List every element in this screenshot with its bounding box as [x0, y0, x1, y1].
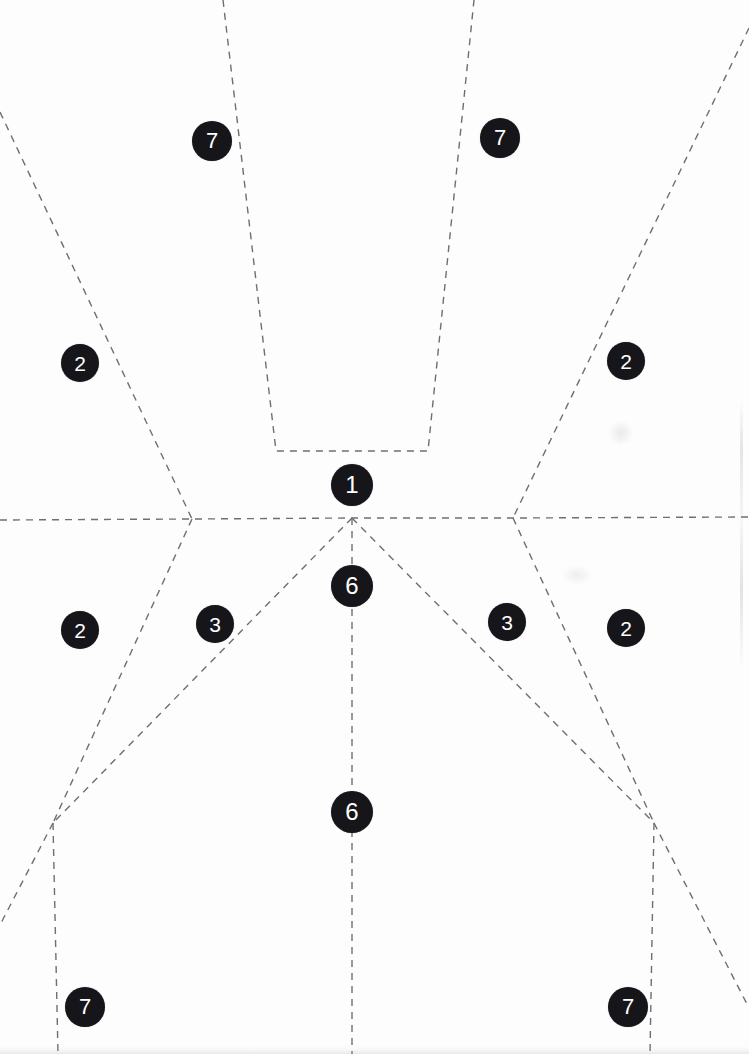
- left-fork-outward-seam: [0, 823, 53, 925]
- notch-marker-2: 2: [61, 611, 99, 649]
- right-fork-drop: [650, 823, 654, 1054]
- notch-marker-3: 3: [196, 605, 234, 643]
- left-fork-drop: [53, 823, 58, 1054]
- notch-marker-label: 7: [622, 996, 634, 1018]
- notch-marker-label: 7: [79, 996, 91, 1018]
- notch-marker-3: 3: [488, 603, 526, 641]
- notch-marker-7: 7: [480, 118, 520, 158]
- right-lower-seam: [513, 518, 654, 823]
- left-inner-seam: [53, 518, 352, 823]
- notch-marker-label: 1: [345, 473, 358, 497]
- notch-marker-label: 3: [501, 611, 513, 632]
- notch-marker-label: 2: [74, 352, 86, 373]
- notch-marker-2: 2: [607, 609, 645, 647]
- dashed-paths-group: [0, 0, 749, 1054]
- notch-marker-label: 7: [206, 130, 218, 152]
- horizontal-centre-axis: [0, 517, 749, 520]
- notch-marker-6: 6: [331, 565, 373, 607]
- notch-marker-7: 7: [192, 121, 232, 161]
- notch-marker-label: 2: [74, 619, 86, 640]
- right-fork-outward-seam: [654, 823, 749, 1008]
- right-inner-seam: [352, 518, 654, 823]
- notch-marker-label: 2: [620, 617, 632, 638]
- notch-marker-6: 6: [331, 791, 373, 833]
- notch-marker-label: 6: [345, 574, 358, 598]
- pattern-sheet: 7722162332677: [0, 0, 749, 1054]
- notch-marker-7: 7: [65, 987, 105, 1027]
- centre-panel-outline: [223, 0, 474, 451]
- left-lower-seam: [53, 519, 192, 823]
- notch-marker-2: 2: [607, 342, 645, 380]
- notch-marker-1: 1: [331, 464, 373, 506]
- notch-marker-label: 6: [345, 800, 358, 824]
- pattern-line-diagram: [0, 0, 749, 1054]
- left-upper-seam: [0, 112, 192, 519]
- notch-marker-label: 7: [494, 127, 506, 149]
- notch-marker-label: 3: [209, 613, 221, 634]
- right-upper-seam: [513, 28, 749, 518]
- notch-marker-7: 7: [608, 987, 648, 1027]
- notch-marker-label: 2: [620, 350, 632, 371]
- notch-marker-2: 2: [61, 344, 99, 382]
